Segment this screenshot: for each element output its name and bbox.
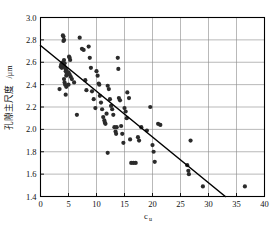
data-point [103,122,107,126]
data-point [148,105,152,109]
y-tick-label: 3.0 [26,13,37,23]
data-point [121,141,125,145]
x-tick-label: 0 [38,199,42,209]
data-point [57,87,61,91]
x-axis-title-subscript: u [149,216,152,222]
x-tick-label: 25 [176,199,185,209]
data-point [150,143,154,147]
data-point [110,107,114,111]
data-point [87,44,91,48]
data-point [134,161,138,165]
x-tick-label: 15 [120,199,129,209]
x-tick-label: 30 [204,199,213,209]
data-point [90,89,94,93]
data-point [62,38,66,42]
y-axis-title: 孔隙主尺度/μm [3,65,14,130]
data-point [128,137,132,141]
y-tick-label: 2.0 [26,124,37,134]
x-tick-label: 40 [260,199,269,209]
y-tick-label: 2.8 [26,35,37,45]
data-point [88,56,92,60]
gridlines [41,18,265,197]
data-point [93,106,97,110]
y-tick-label: 2.6 [26,57,37,67]
data-point [119,124,123,128]
data-point [89,66,93,70]
data-point [99,100,103,104]
x-tick-label: 10 [92,199,101,209]
data-point [118,98,122,102]
data-point [75,113,79,117]
y-axis-tick-labels: 1.41.61.82.02.22.42.62.83.0 [26,13,37,202]
scatter-plot: 0510152025303540 1.41.61.82.02.22.42.62.… [0,0,280,230]
data-point [137,138,141,142]
data-point [64,93,68,97]
data-point [120,132,124,136]
data-point [158,123,162,127]
data-point [153,160,157,164]
data-point [125,90,129,94]
y-tick-label: 1.4 [26,192,37,202]
data-point [78,36,82,40]
y-tick-label: 2.2 [26,102,37,112]
x-tick-label: 35 [232,199,241,209]
data-point [187,172,191,176]
data-point [201,184,205,188]
data-point [116,67,120,71]
data-point [152,150,156,154]
y-tick-label: 1.6 [26,169,37,179]
y-axis-title-text: 孔隙主尺度 [3,85,14,130]
y-tick-label: 1.8 [26,147,37,157]
data-point [94,69,98,73]
data-point [116,56,120,60]
data-point [68,58,72,62]
data-point [114,132,118,136]
data-point [97,83,101,87]
data-point [115,125,119,129]
data-point [104,112,108,116]
data-point [84,88,88,92]
x-tick-label: 20 [148,199,157,209]
x-tick-label: 5 [66,199,70,209]
data-point [92,97,96,101]
x-axis-tick-labels: 0510152025303540 [38,199,268,209]
data-point [107,87,111,91]
data-point [66,83,70,87]
data-point [82,48,86,52]
chart-figure: 0510152025303540 1.41.61.82.02.22.42.62.… [0,0,280,230]
y-tick-label: 2.4 [26,80,37,90]
data-point [243,184,247,188]
data-point [96,74,100,78]
data-point [72,80,76,84]
data-point [100,107,104,111]
y-axis-title-unit: /μm [5,65,14,79]
data-point [106,151,110,155]
data-point [111,113,115,117]
x-axis-title: cu [144,211,152,222]
x-axis-title-text: c [144,211,148,221]
data-point [127,96,131,100]
data-point [188,138,192,142]
